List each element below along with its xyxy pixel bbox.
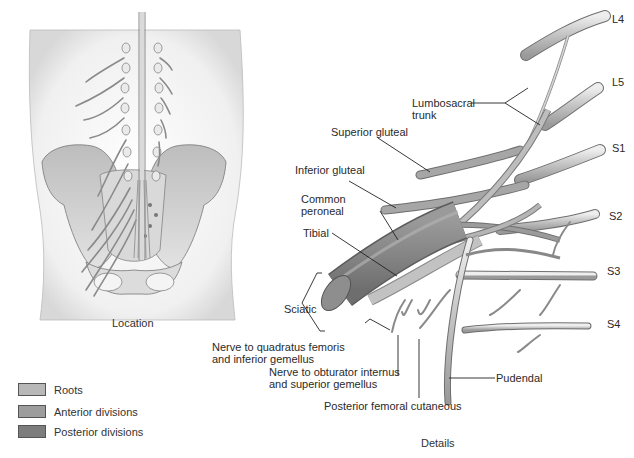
label-inferior-gluteal: Inferior gluteal bbox=[295, 164, 365, 176]
label-obturator-2: and superior gemellus bbox=[269, 378, 377, 390]
root-label-s3: S3 bbox=[607, 265, 620, 277]
label-sciatic: Sciatic bbox=[284, 303, 316, 315]
details-caption: Details bbox=[421, 437, 455, 449]
label-quadratus-2: and inferior gemellus bbox=[212, 353, 314, 365]
label-lumbosacral-trunk-2: trunk bbox=[412, 109, 436, 121]
sacral-plexus-illustration bbox=[316, 16, 605, 402]
label-posterior-femoral: Posterior femoral cutaneous bbox=[324, 400, 462, 412]
legend-item-posterior: Posterior divisions bbox=[18, 425, 143, 438]
root-label-l5: L5 bbox=[612, 76, 624, 88]
legend-label: Roots bbox=[54, 384, 83, 396]
label-lumbosacral-trunk-1: Lumbosacral bbox=[412, 97, 475, 109]
legend-item-roots: Roots bbox=[18, 383, 83, 396]
root-label-s1: S1 bbox=[612, 142, 625, 154]
label-superior-gluteal: Superior gluteal bbox=[331, 126, 408, 138]
legend-item-anterior: Anterior divisions bbox=[18, 405, 138, 418]
label-common-peroneal-1: Common bbox=[301, 193, 346, 205]
location-caption: Location bbox=[112, 317, 154, 329]
legend-label: Posterior divisions bbox=[54, 426, 143, 438]
legend-swatch-anterior bbox=[18, 405, 46, 418]
label-quadratus-1: Nerve to quadratus femoris bbox=[212, 341, 345, 353]
label-pudendal: Pudendal bbox=[496, 372, 543, 384]
legend-label: Anterior divisions bbox=[54, 406, 138, 418]
root-label-s4: S4 bbox=[607, 318, 620, 330]
label-tibial: Tibial bbox=[303, 227, 329, 239]
legend-swatch-posterior bbox=[18, 425, 46, 438]
label-obturator-1: Nerve to obturator internus bbox=[269, 366, 400, 378]
label-common-peroneal-2: peroneal bbox=[301, 205, 344, 217]
root-label-l4: L4 bbox=[612, 13, 624, 25]
root-label-s2: S2 bbox=[609, 210, 622, 222]
legend-swatch-roots bbox=[18, 383, 46, 396]
